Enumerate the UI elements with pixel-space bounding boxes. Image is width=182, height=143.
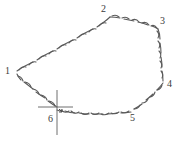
contour-drawing-canvas [0,0,182,143]
contour-edge-6-1-scallops [18,76,55,106]
vertex-label-2: 2 [101,4,106,14]
vertex-label-1: 1 [5,66,10,76]
vertex-label-4: 4 [167,79,172,89]
vertex-label-5: 5 [130,113,135,123]
contour-path-group [17,15,163,115]
contour-figure: 1 2 3 4 5 6 [0,0,182,143]
contour-edge-2-3-scallops [112,15,157,28]
contour-edge-1-2-scallops [19,23,106,70]
vertex-label-6: 6 [48,114,53,124]
vertex-label-3: 3 [160,16,165,26]
contour-edge-2-3 [110,17,158,29]
contour-edge-4-5 [134,83,163,109]
